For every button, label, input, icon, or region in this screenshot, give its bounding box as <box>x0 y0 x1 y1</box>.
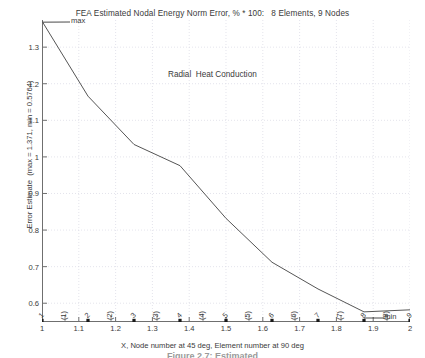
x-tick-label: 1.8 <box>331 324 342 333</box>
node-number-label: 7 <box>313 311 322 320</box>
y-tick-label: 1.3 <box>28 43 39 52</box>
x-tick-label: 1.9 <box>368 324 379 333</box>
x-tick-label: 1.6 <box>258 324 269 333</box>
node-number-label: 3 <box>129 311 138 320</box>
node-number-labels: 123456789 <box>42 296 410 320</box>
node-number-label: 8 <box>359 311 368 320</box>
x-axis-ticks: 11.11.21.31.41.51.61.71.81.92 <box>42 324 410 336</box>
y-axis-ticks: 1.31.21.110.90.80.70.6 <box>0 20 39 322</box>
x-tick-label: 2 <box>408 324 412 333</box>
node-number-label: 9 <box>405 311 414 320</box>
node-number-label: 2 <box>83 311 92 320</box>
y-tick-label: 0.7 <box>28 262 39 271</box>
figure-caption: Figure 2.7: Estimated <box>0 351 425 358</box>
y-tick-label: 1.2 <box>28 79 39 88</box>
chart-title: FEA Estimated Nodal Energy Norm Error, %… <box>0 9 425 18</box>
x-tick-label: 1.1 <box>74 324 85 333</box>
node-number-label: 5 <box>221 311 230 320</box>
chart-svg <box>42 20 410 322</box>
y-tick-label: 0.9 <box>28 189 39 198</box>
y-tick-label: 0.8 <box>28 226 39 235</box>
x-tick-label: 1.7 <box>294 324 305 333</box>
x-axis-label: X, Node number at 45 deg, Element number… <box>0 341 425 350</box>
plot-area: maxmin <box>42 20 410 322</box>
x-tick-label: 1.2 <box>110 324 121 333</box>
x-tick-label: 1.3 <box>147 324 158 333</box>
node-number-label: 4 <box>175 311 184 320</box>
y-tick-label: 1 <box>35 152 39 161</box>
x-tick-label: 1.4 <box>184 324 195 333</box>
node-number-label: 6 <box>267 311 276 320</box>
x-tick-label: 1.5 <box>221 324 232 333</box>
data-line <box>42 21 410 312</box>
x-tick-label: 1 <box>40 324 44 333</box>
y-tick-label: 0.6 <box>28 299 39 308</box>
figure-container: FEA Estimated Nodal Energy Norm Error, %… <box>0 0 425 358</box>
y-tick-label: 1.1 <box>28 116 39 125</box>
max-marker-label: max <box>71 16 85 25</box>
